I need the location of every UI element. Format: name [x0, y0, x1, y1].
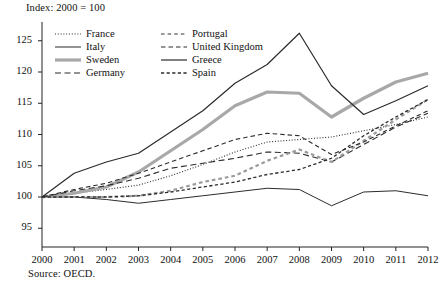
- x-tick-label: 2001: [58, 254, 90, 265]
- legend-entry: Greece: [161, 53, 263, 66]
- legend-swatch-icon: [55, 42, 81, 52]
- legend-label: Portugal: [192, 27, 228, 40]
- legend-entry: United Kingdom: [161, 40, 263, 53]
- chart-legend: FrancePortugalItalyUnited KingdomSwedenG…: [55, 27, 263, 79]
- y-tick-label: 95: [10, 221, 32, 232]
- legend-entry: Portugal: [161, 27, 263, 40]
- source-note: Source: OECD.: [28, 268, 95, 279]
- x-tick-label: 2003: [123, 254, 155, 265]
- series-line-portugal: [42, 100, 428, 198]
- y-tick-label: 105: [10, 159, 32, 170]
- x-tick-label: 2004: [155, 254, 187, 265]
- x-tick-label: 2000: [26, 254, 58, 265]
- legend-entry: Sweden: [55, 53, 151, 66]
- legend-swatch-icon: [161, 29, 187, 39]
- series-line-united-kingdom: [42, 111, 428, 197]
- y-tick-label: 115: [10, 96, 32, 107]
- x-tick-label: 2002: [90, 254, 122, 265]
- y-tick-label: 125: [10, 34, 32, 45]
- legend-label: United Kingdom: [192, 40, 263, 53]
- x-tick-label: 2006: [219, 254, 251, 265]
- legend-swatch-icon: [55, 29, 81, 39]
- legend-swatch-icon: [55, 55, 81, 65]
- y-tick-label: 120: [10, 65, 32, 76]
- legend-label: Sweden: [86, 53, 119, 66]
- series-line-france: [42, 117, 428, 197]
- legend-entry: France: [55, 27, 151, 40]
- x-tick-label: 2012: [412, 254, 443, 265]
- legend-swatch-icon: [161, 55, 187, 65]
- series-line-sweden: [42, 73, 428, 197]
- legend-label: Spain: [192, 66, 216, 79]
- legend-swatch-icon: [55, 68, 81, 78]
- x-tick-label: 2008: [283, 254, 315, 265]
- y-tick-label: 100: [10, 190, 32, 201]
- x-tick-label: 2010: [348, 254, 380, 265]
- legend-entry: Italy: [55, 40, 151, 53]
- legend-swatch-icon: [161, 68, 187, 78]
- legend-label: France: [86, 27, 115, 40]
- legend-label: Germany: [86, 66, 125, 79]
- x-tick-label: 2011: [380, 254, 412, 265]
- legend-label: Italy: [86, 40, 105, 53]
- legend-label: Greece: [192, 53, 222, 66]
- series-line-spain: [42, 100, 428, 198]
- series-line-germany: [42, 113, 428, 197]
- x-tick-label: 2009: [316, 254, 348, 265]
- y-tick-label: 110: [10, 128, 32, 139]
- legend-entry: Spain: [161, 66, 263, 79]
- x-tick-label: 2007: [251, 254, 283, 265]
- legend-entry: Germany: [55, 66, 151, 79]
- legend-swatch-icon: [161, 42, 187, 52]
- x-tick-label: 2005: [187, 254, 219, 265]
